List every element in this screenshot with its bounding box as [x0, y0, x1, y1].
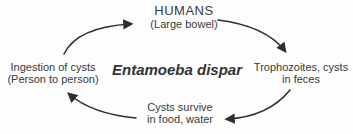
- node-cysts-survive-line2: in food, water: [147, 113, 213, 125]
- node-ingestion-line1: Ingestion of cysts: [7, 61, 98, 73]
- arrow-cysts-to-ingestion-icon: [69, 94, 136, 118]
- arrow-humans-to-trophozoites-icon: [218, 20, 285, 51]
- node-trophozoites-line2: in feces: [254, 73, 348, 85]
- node-humans-subtitle: (Large bowel): [150, 18, 217, 30]
- node-cysts-survive: Cysts survive in food, water: [147, 101, 213, 125]
- arrow-ingestion-to-humans-icon: [64, 24, 131, 54]
- arrow-trophozoites-to-cysts-icon: [227, 90, 290, 119]
- life-cycle-diagram: HUMANS (Large bowel) Trophozoites, cysts…: [0, 0, 353, 134]
- node-cysts-survive-line1: Cysts survive: [147, 101, 213, 113]
- node-humans-title: HUMANS: [150, 4, 217, 18]
- node-humans: HUMANS (Large bowel): [150, 4, 217, 30]
- diagram-title: Entamoeba dispar: [112, 61, 242, 78]
- node-trophozoites-line1: Trophozoites, cysts: [254, 61, 348, 73]
- node-trophozoites: Trophozoites, cysts in feces: [254, 61, 348, 85]
- node-ingestion: Ingestion of cysts (Person to person): [7, 61, 98, 85]
- node-ingestion-line2: (Person to person): [7, 73, 98, 85]
